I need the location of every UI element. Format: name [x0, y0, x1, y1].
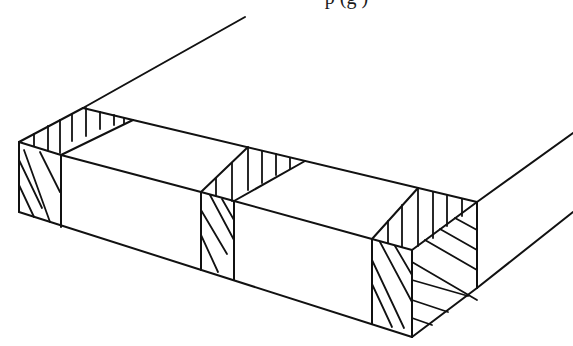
- outline-edge: [412, 202, 477, 250]
- outline-edge: [19, 108, 83, 142]
- outline-edge: [201, 147, 248, 192]
- hatch-line: [440, 229, 477, 250]
- hatch-line: [40, 152, 60, 192]
- outline-edge: [372, 239, 412, 250]
- outline-edge: [83, 17, 245, 108]
- hatch-line: [380, 242, 412, 302]
- outline-edge: [201, 192, 234, 201]
- hatch-line: [24, 150, 50, 222]
- timber-joint-diagram: [0, 0, 573, 346]
- hatch-line: [201, 235, 218, 272]
- outline-edge: [61, 155, 201, 192]
- outline-edge: [477, 133, 573, 202]
- hatch-line: [210, 195, 234, 240]
- outline-edge: [83, 108, 133, 120]
- outline-edge: [372, 188, 418, 239]
- outline-edge: [234, 201, 372, 239]
- outline-edge: [19, 212, 412, 337]
- hatch-line: [412, 300, 448, 312]
- hatch-line: [201, 210, 227, 254]
- hatch-line: [425, 240, 477, 270]
- hatch-line: [372, 284, 392, 327]
- hatch-line: [455, 218, 477, 230]
- hatch-line: [412, 318, 432, 325]
- outline-edge: [234, 161, 305, 201]
- hatch-line: [222, 199, 234, 220]
- outline-edge: [477, 212, 573, 288]
- hatch-line: [395, 246, 412, 275]
- hatch-line: [412, 280, 468, 296]
- board-outline: [19, 17, 573, 337]
- hatch-line: [412, 262, 477, 300]
